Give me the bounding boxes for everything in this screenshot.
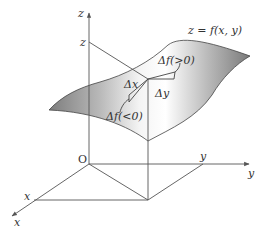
origin-label: O xyxy=(78,153,87,166)
surface-increment-diagram: z z z = f(x, y) Δf(>0) Δx Δy Δf(<0) O y … xyxy=(0,0,260,233)
z-projection-line xyxy=(89,42,148,79)
x-axis-label: x xyxy=(14,216,21,229)
y-projection-line xyxy=(148,164,203,200)
delta-x-label: Δx xyxy=(123,78,139,91)
y-tick-label: y xyxy=(199,150,207,163)
y-axis-label: y xyxy=(247,167,255,180)
z-axis-label: z xyxy=(77,7,84,20)
origin-diagonal-line xyxy=(89,164,148,200)
delta-f-positive-label: Δf(>0) xyxy=(157,54,195,67)
surface-label: z = f(x, y) xyxy=(187,24,242,37)
delta-f-negative-label: Δf(<0) xyxy=(105,110,143,123)
surface-patch xyxy=(49,40,250,141)
z-tick-label: z xyxy=(79,36,86,49)
delta-y-label: Δy xyxy=(154,87,170,100)
x-tick-label: x xyxy=(24,190,31,203)
